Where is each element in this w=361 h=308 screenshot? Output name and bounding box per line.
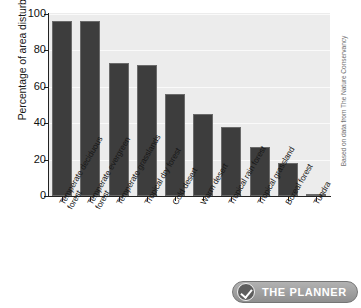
the-planner-label: THE PLANNER: [262, 286, 347, 298]
y-tick-label: 20: [4, 154, 46, 165]
y-axis-line: [48, 13, 49, 197]
y-tick-label: 60: [4, 81, 46, 92]
gridline: [48, 14, 330, 15]
bar: [52, 21, 72, 196]
the-planner-badge[interactable]: THE PLANNER: [232, 281, 358, 303]
y-tick-label: 40: [4, 117, 46, 128]
y-tick-label: 0: [4, 190, 46, 201]
y-tick-label: 80: [4, 44, 46, 55]
check-icon: [237, 283, 255, 301]
y-tick-label: 100: [4, 8, 46, 19]
source-credit: Based on data from The Nature Conservanc…: [338, 21, 350, 181]
y-axis-ticks: 020406080100: [0, 0, 46, 308]
